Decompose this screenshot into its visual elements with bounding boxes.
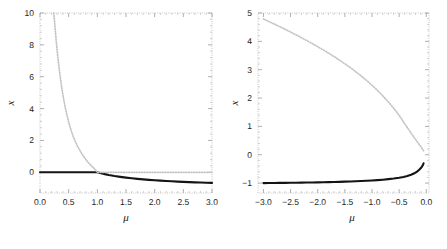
right-xtick-label: −0.5 — [391, 197, 408, 207]
figure-root: 0.00.51.01.52.02.53.00246810 μ x −3.0−2.… — [0, 0, 447, 249]
left-ytick-label: 2 — [29, 135, 34, 145]
left-xtick-label: 1.5 — [120, 197, 132, 207]
left-xtick-label: 0.0 — [34, 197, 46, 207]
right-xtick-label: −1.0 — [364, 197, 381, 207]
left-unstable-branch — [54, 13, 212, 172]
left-curves — [40, 13, 212, 183]
left-ytick-label: 10 — [25, 8, 35, 18]
right-ytick-label: 1 — [247, 121, 252, 131]
right-yaxis-title: x — [228, 100, 240, 106]
right-xtick-label: −2.5 — [282, 197, 299, 207]
right-stable-branch — [263, 163, 423, 183]
left-plot-frame — [40, 13, 212, 193]
right-ytick-label: 3 — [247, 65, 252, 75]
left-xaxis-title: μ — [122, 211, 129, 223]
left-xtick-label: 2.0 — [149, 197, 161, 207]
left-stable-branch — [40, 172, 212, 183]
left-ytick-label: 6 — [29, 72, 34, 82]
right-xtick-label: −1.5 — [336, 197, 353, 207]
left-panel: 0.00.51.01.52.02.53.00246810 μ x — [0, 0, 223, 249]
right-ytick-label: 4 — [247, 36, 252, 46]
right-ytick-label: 0 — [247, 150, 252, 160]
right-ytick-label: 5 — [247, 8, 252, 18]
left-panel-plot: 0.00.51.01.52.02.53.00246810 μ x — [0, 0, 223, 249]
right-ytick-label: 2 — [247, 93, 252, 103]
left-xtick-label: 0.5 — [63, 197, 75, 207]
left-tick-marks — [40, 13, 212, 193]
left-xtick-label: 1.0 — [91, 197, 103, 207]
right-unstable-branch — [263, 19, 423, 151]
right-xtick-label: −2.0 — [309, 197, 326, 207]
right-curves — [263, 19, 423, 183]
right-panel: −3.0−2.5−2.0−1.5−1.0−0.50.0−1012345 μ x — [224, 0, 447, 249]
right-ytick-label: −1 — [242, 178, 252, 188]
left-ytick-label: 8 — [29, 40, 34, 50]
left-ytick-label: 0 — [29, 167, 34, 177]
right-xtick-label: 0.0 — [420, 197, 432, 207]
left-xtick-label: 3.0 — [206, 197, 218, 207]
left-yaxis-title: x — [4, 100, 16, 106]
right-tick-marks — [258, 13, 429, 193]
right-panel-plot: −3.0−2.5−2.0−1.5−1.0−0.50.0−1012345 μ x — [224, 0, 447, 249]
right-xtick-label: −3.0 — [255, 197, 272, 207]
left-ytick-label: 4 — [29, 104, 34, 114]
right-xaxis-title: μ — [348, 211, 355, 223]
right-plot-frame — [258, 13, 429, 193]
left-xtick-label: 2.5 — [177, 197, 189, 207]
